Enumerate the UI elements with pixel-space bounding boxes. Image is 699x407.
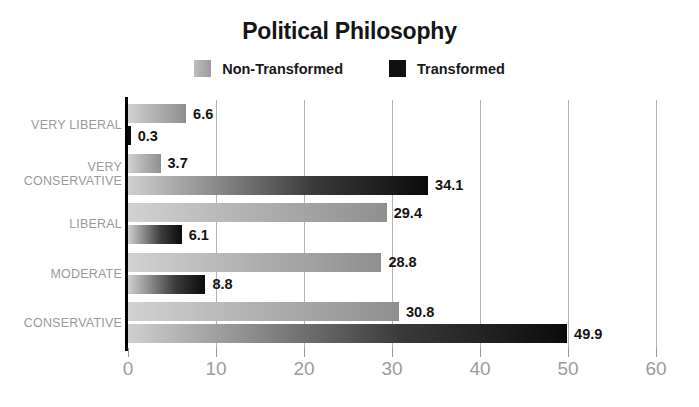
bar-group-very-liberal: 6.6 0.3 <box>128 100 656 150</box>
category-label-conservative: CONSERVATIVE <box>0 298 122 348</box>
bar-value-non-transformed: 6.6 <box>193 106 213 122</box>
gridline-60 <box>656 100 657 348</box>
legend-label-transformed: Transformed <box>417 61 505 77</box>
category-line: LIBERAL <box>0 217 122 231</box>
category-label-moderate: MODERATE <box>0 249 122 299</box>
bar-row-transformed: 49.9 <box>128 324 602 343</box>
category-line: VERY <box>0 160 122 174</box>
bar-value-transformed: 8.8 <box>212 276 232 292</box>
tick-label-0: 0 <box>123 358 134 380</box>
tick-mark-40 <box>480 348 481 357</box>
category-label-liberal: LIBERAL <box>0 199 122 249</box>
bar-row-transformed: 0.3 <box>128 126 158 145</box>
bar-value-non-transformed: 30.8 <box>406 304 434 320</box>
bar-value-non-transformed: 3.7 <box>168 155 188 171</box>
bar-group-conservative: 30.8 49.9 <box>128 298 656 348</box>
plot-area: 6.6 0.3 3.7 34.1 29.4 <box>128 100 656 348</box>
bar-group-liberal: 29.4 6.1 <box>128 199 656 249</box>
bar-row-non-transformed: 6.6 <box>128 104 213 123</box>
category-line: CONSERVATIVE <box>0 316 122 330</box>
tick-mark-50 <box>568 348 569 357</box>
tick-label-50: 50 <box>557 358 578 380</box>
bar-row-non-transformed: 3.7 <box>128 154 188 173</box>
bar-non-transformed <box>128 154 161 173</box>
tick-label-10: 10 <box>205 358 226 380</box>
bar-transformed <box>128 126 131 145</box>
bar-non-transformed <box>128 104 186 123</box>
category-line: VERY LIBERAL <box>0 118 122 132</box>
bar-row-non-transformed: 29.4 <box>128 203 422 222</box>
chart-title: Political Philosophy <box>0 18 699 45</box>
bar-transformed <box>128 275 205 294</box>
category-axis: VERY LIBERAL VERY CONSERVATIVE LIBERAL M… <box>0 100 122 348</box>
legend-label-non-transformed: Non-Transformed <box>222 61 343 77</box>
bar-transformed <box>128 176 428 195</box>
tick-label-40: 40 <box>469 358 490 380</box>
x-axis: 0 10 20 30 40 50 60 <box>128 348 656 398</box>
bar-group-very-conservative: 3.7 34.1 <box>128 150 656 200</box>
tick-mark-30 <box>392 348 393 357</box>
bar-value-transformed: 49.9 <box>574 326 602 342</box>
category-line: MODERATE <box>0 267 122 281</box>
bar-transformed <box>128 324 567 343</box>
political-philosophy-chart: Political Philosophy Non-Transformed Tra… <box>0 0 699 407</box>
bar-row-non-transformed: 30.8 <box>128 302 434 321</box>
tick-mark-20 <box>304 348 305 357</box>
category-label-very-liberal: VERY LIBERAL <box>0 100 122 150</box>
tick-label-30: 30 <box>381 358 402 380</box>
tick-label-20: 20 <box>293 358 314 380</box>
bar-value-non-transformed: 29.4 <box>394 205 422 221</box>
legend-item-transformed: Transformed <box>389 60 505 77</box>
bar-row-transformed: 8.8 <box>128 275 233 294</box>
bar-row-transformed: 34.1 <box>128 176 463 195</box>
category-label-very-conservative: VERY CONSERVATIVE <box>0 150 122 200</box>
bar-transformed <box>128 225 182 244</box>
bar-value-transformed: 6.1 <box>189 227 209 243</box>
category-line: CONSERVATIVE <box>0 174 122 188</box>
gray-swatch-icon <box>194 60 211 77</box>
tick-mark-10 <box>216 348 217 357</box>
black-swatch-icon <box>389 60 406 77</box>
tick-mark-60 <box>656 348 657 357</box>
bar-value-transformed: 0.3 <box>138 128 158 144</box>
tick-label-60: 60 <box>645 358 666 380</box>
bar-row-non-transformed: 28.8 <box>128 253 417 272</box>
bar-row-transformed: 6.1 <box>128 225 209 244</box>
tick-mark-0 <box>128 348 129 357</box>
bar-group-moderate: 28.8 8.8 <box>128 249 656 299</box>
bar-value-transformed: 34.1 <box>435 177 463 193</box>
legend-item-non-transformed: Non-Transformed <box>194 60 343 77</box>
bar-non-transformed <box>128 253 381 272</box>
chart-legend: Non-Transformed Transformed <box>0 60 699 77</box>
bar-non-transformed <box>128 203 387 222</box>
bar-non-transformed <box>128 302 399 321</box>
bar-value-non-transformed: 28.8 <box>388 254 416 270</box>
